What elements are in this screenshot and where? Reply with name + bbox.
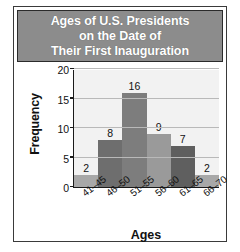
y-tick-mark bbox=[70, 127, 74, 129]
bar-value-label: 2 bbox=[195, 162, 219, 174]
bar-value-label: 2 bbox=[74, 162, 98, 174]
y-tick-mark bbox=[70, 186, 74, 188]
y-tick-mark bbox=[70, 68, 74, 70]
y-axis-tick-labels: 05101520 bbox=[44, 62, 69, 242]
bar-value-label: 16 bbox=[122, 80, 146, 92]
bar-slot: 7 bbox=[171, 70, 195, 187]
chart-title-block: Ages of U.S. Presidents on the Date of T… bbox=[17, 10, 223, 62]
gridline bbox=[74, 127, 219, 128]
bar-slot: 9 bbox=[147, 70, 171, 187]
chart-plot-region: Frequency 05101520 2816972 41–4546–5051–… bbox=[14, 62, 226, 242]
y-tick-label: 5 bbox=[47, 153, 69, 165]
chart-title-line-2: on the Date of bbox=[79, 29, 161, 44]
x-axis-tick-labels: 41–4546–5051–5556–6061–6566–70 bbox=[73, 190, 219, 232]
y-tick-label: 15 bbox=[47, 94, 69, 106]
gridline bbox=[74, 157, 219, 158]
gridline bbox=[74, 98, 219, 99]
plot-area: 2816972 bbox=[73, 70, 219, 188]
bar-slot: 2 bbox=[195, 70, 219, 187]
y-tick-label: 0 bbox=[47, 182, 69, 194]
bar-slot: 2 bbox=[74, 70, 98, 187]
gridline bbox=[74, 68, 219, 69]
chart-title-line-1: Ages of U.S. Presidents bbox=[51, 14, 190, 29]
y-tick-label: 10 bbox=[47, 123, 69, 135]
y-tick-mark bbox=[70, 97, 74, 99]
y-tick-label: 20 bbox=[47, 64, 69, 76]
chart-figure: Ages of U.S. Presidents on the Date of T… bbox=[13, 6, 227, 242]
bar-slot: 8 bbox=[98, 70, 122, 187]
bar-slot: 16 bbox=[122, 70, 146, 187]
y-tick-mark bbox=[70, 156, 74, 158]
y-axis-label: Frequency bbox=[28, 84, 42, 164]
bar-value-label: 7 bbox=[171, 133, 195, 145]
bar bbox=[122, 93, 146, 187]
chart-title-line-3: Their First Inauguration bbox=[51, 44, 189, 59]
bar-value-label: 8 bbox=[98, 127, 122, 139]
bar-series: 2816972 bbox=[74, 70, 219, 187]
x-axis-label: Ages bbox=[73, 228, 219, 242]
